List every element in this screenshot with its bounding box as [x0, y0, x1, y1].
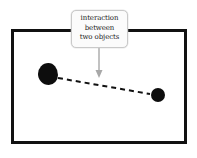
- callout-line-1: interaction: [81, 14, 119, 24]
- diagram-canvas: interaction between two objects: [0, 0, 197, 158]
- callout-arrow-head: [96, 70, 103, 78]
- callout-line-2: between: [85, 24, 115, 34]
- callout-line-3: two objects: [80, 33, 119, 43]
- interaction-dashed-line: [58, 78, 150, 94]
- interaction-callout-box: interaction between two objects: [71, 10, 128, 48]
